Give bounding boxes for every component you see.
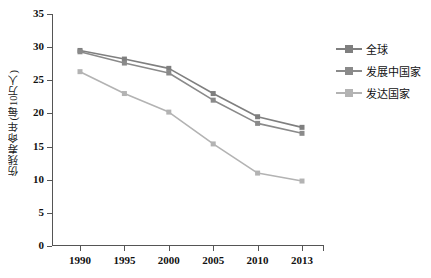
plot-area: 05101520253035 199019952000200520102013 [52,14,324,246]
data-point-marker [78,49,83,54]
legend-label: 发展中国家 [366,63,421,79]
x-tick-label: 1995 [113,254,135,266]
x-tick [213,246,214,251]
legend-marker-icon [345,45,353,53]
x-tick-label: 2010 [247,254,269,266]
chart-legend: 全球发展中国家发达国家 [336,38,431,104]
data-point-marker [166,110,171,115]
x-tick [80,246,81,251]
legend-swatch [336,43,362,55]
y-tick-label: 25 [33,73,44,85]
series-line [80,52,302,134]
y-tick-label: 5 [39,206,45,218]
y-tick-label: 0 [39,239,45,251]
y-tick-label: 30 [33,40,44,52]
legend-label: 全球 [366,41,388,57]
data-point-marker [78,69,83,74]
data-point-marker [122,61,127,66]
data-point-marker [211,98,216,103]
y-axis-title-text: 伤残寿命年(每10万人) [6,70,21,176]
x-tick [323,246,324,251]
x-tick [169,246,170,251]
legend-item-3[interactable]: 发达国家 [336,82,431,104]
chart-screenshot: 伤残寿命年(每10万人) 05101520253035 199019952000… [0,0,431,278]
legend-label: 发达国家 [366,85,410,101]
x-tick [302,246,303,251]
data-point-marker [166,66,171,71]
data-point-marker [211,91,216,96]
x-tick [258,246,259,251]
legend-swatch [336,65,362,77]
x-tick-label: 1990 [69,254,91,266]
data-point-marker [255,114,260,119]
y-axis-title: 伤残寿命年(每10万人) [0,0,26,246]
series-2 [78,49,305,136]
x-tick-label: 2000 [158,254,180,266]
x-tick [124,246,125,251]
legend-marker-icon [345,89,353,97]
data-point-marker [211,141,216,146]
y-tick: 0 [47,246,52,247]
series-layer [52,14,324,246]
data-point-marker [300,179,305,184]
y-tick-label: 15 [33,140,44,152]
legend-item-1[interactable]: 全球 [336,38,431,60]
legend-item-2[interactable]: 发展中国家 [336,60,431,82]
x-tick-label: 2005 [202,254,224,266]
data-point-marker [122,91,127,96]
data-point-marker [255,171,260,176]
data-point-marker [166,70,171,75]
legend-swatch [336,87,362,99]
y-tick-label: 35 [33,7,44,19]
data-point-marker [300,125,305,130]
y-tick-label: 20 [33,106,44,118]
x-tick-label: 2013 [291,254,313,266]
legend-marker-icon [345,67,353,75]
data-point-marker [255,121,260,126]
y-tick-label: 10 [33,173,44,185]
data-point-marker [300,131,305,136]
